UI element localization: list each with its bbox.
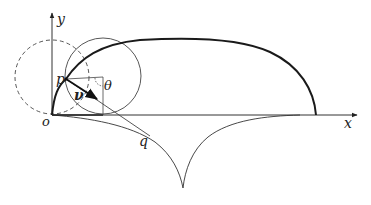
lower-cusp-curve-left [52,115,183,188]
x-axis-label: x [344,115,352,131]
upper-curve [52,39,316,115]
y-axis-label: y [56,11,66,27]
diagram-canvas: y x o p q θ ν [0,0,371,205]
angle-theta-label: θ [104,78,112,93]
point-p-label: p [56,71,65,87]
lower-cusp-curve-right [183,115,300,188]
origin-label: o [42,114,50,129]
angle-theta-marker [95,78,103,86]
p-to-center-line [66,77,103,79]
vector-nu-label: ν [74,87,84,103]
point-q-label: q [139,133,148,149]
